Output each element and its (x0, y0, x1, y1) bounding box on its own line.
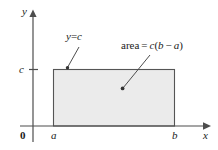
area-label-equals: = (139, 39, 149, 51)
function-label-rhs: c (77, 30, 82, 42)
function-label-leader-dot (66, 66, 69, 69)
x-axis-label: x (203, 130, 208, 141)
area-label-close-paren: ) (179, 39, 183, 51)
area-label-expression: area=c(b−a) (121, 40, 183, 51)
y-tick-label-c: c (19, 64, 24, 75)
area-label-upper-bound: b (158, 39, 164, 51)
function-label-leader-line (68, 47, 80, 68)
y-axis-arrowhead-icon (29, 10, 36, 18)
figure-area-under-constant-function: y x 0 c a b y=c area=c(b−a) (0, 0, 218, 150)
function-label-y-equals-c: y=c (66, 31, 82, 42)
area-label-leader-dot (121, 87, 125, 91)
x-tick-label-a: a (51, 130, 57, 141)
origin-label: 0 (20, 130, 26, 141)
shaded-area-rectangle (54, 70, 175, 127)
x-tick-label-b: b (172, 130, 178, 141)
figure-canvas (0, 0, 218, 150)
area-label-word: area (121, 39, 139, 51)
y-axis-label: y (22, 6, 27, 17)
area-label-minus: − (164, 39, 174, 51)
